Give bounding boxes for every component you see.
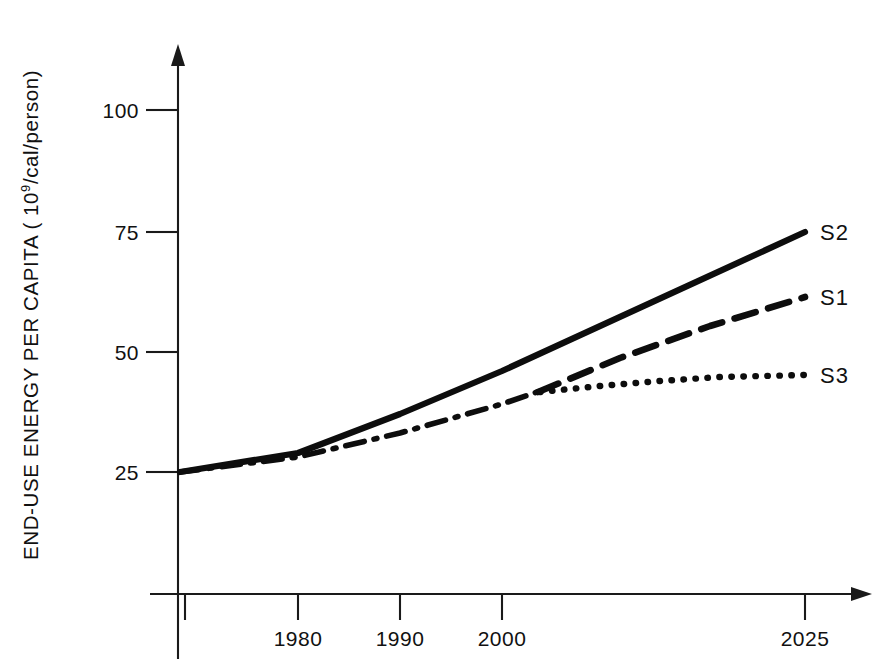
chart-canvas: END-USE ENERGY PER CAPITA ( 109/cal/pers… bbox=[0, 0, 878, 659]
x-axis-arrow-icon bbox=[851, 587, 872, 601]
x-tick-label-1990: 1990 bbox=[376, 627, 425, 650]
chart-figure: END-USE ENERGY PER CAPITA ( 109/cal/pers… bbox=[0, 0, 878, 659]
y-tick-label-50: 50 bbox=[115, 341, 139, 364]
y-axis-title: END-USE ENERGY PER CAPITA ( 109/cal/pers… bbox=[18, 70, 42, 560]
y-tick-label-75: 75 bbox=[115, 221, 139, 244]
series-label-s1: S1 bbox=[820, 285, 849, 310]
series-line-s2 bbox=[180, 232, 805, 472]
y-tick-label-100: 100 bbox=[102, 99, 139, 122]
x-tick-label-1980: 1980 bbox=[274, 627, 323, 650]
y-axis-arrow-icon bbox=[171, 44, 185, 66]
y-axis-title-main: END-USE ENERGY PER CAPITA ( 10 bbox=[19, 192, 42, 560]
y-axis-title-superscript: 9 bbox=[18, 184, 33, 192]
series-label-s2: S2 bbox=[820, 220, 849, 245]
x-tick-label-2025: 2025 bbox=[781, 627, 830, 650]
y-tick-label-25: 25 bbox=[115, 461, 139, 484]
series-label-s3: S3 bbox=[820, 363, 849, 388]
y-axis-title-tail: /cal/person) bbox=[19, 70, 42, 184]
x-tick-label-2000: 2000 bbox=[478, 627, 527, 650]
